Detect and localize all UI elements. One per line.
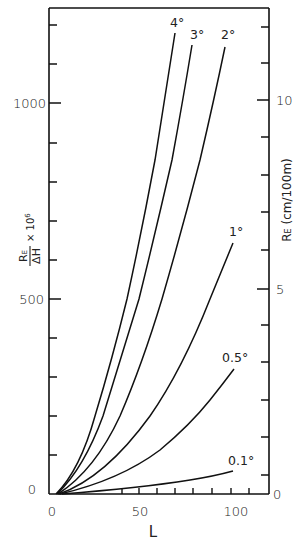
chart-canvas: 1000 500 0 10 5 0 0 50 100 L RE ΔH × 106… [0, 0, 298, 543]
x-axis-title: L [149, 523, 158, 541]
curve-label-2deg: 2° [221, 27, 235, 42]
y-right-axis-title: RE (cm/100m) [280, 158, 294, 242]
x-ticks [122, 488, 249, 494]
curve-label-05deg: 0.5° [222, 350, 248, 365]
svg-text:RE (cm/100m): RE (cm/100m) [280, 158, 294, 242]
curve-3deg [57, 45, 192, 494]
svg-text:× 106: × 106 [24, 213, 36, 242]
y-tick-1000: 1000 [13, 96, 46, 111]
x-tick-100: 100 [224, 504, 249, 519]
curve-01deg [62, 471, 233, 494]
yr-tick-5: 5 [276, 282, 284, 297]
y-tick-500: 500 [19, 292, 44, 307]
y-left-axis-title: RE ΔH × 106 [17, 213, 43, 266]
y-tick-0: 0 [28, 482, 36, 497]
svg-text:ΔH: ΔH [30, 248, 43, 264]
curves [56, 33, 234, 494]
curve-label-4deg: 4° [170, 15, 184, 30]
svg-text:RE: RE [17, 250, 30, 262]
x-tick-0: 0 [48, 504, 56, 519]
y-right-ticks [257, 27, 269, 475]
curve-label-01deg: 0.1° [228, 453, 254, 468]
plot-frame [49, 8, 269, 494]
x-tick-50: 50 [132, 504, 149, 519]
curve-05deg [60, 369, 234, 494]
curve-label-1deg: 1° [229, 224, 243, 239]
y-left-ticks [49, 25, 61, 455]
yr-tick-10: 10 [276, 93, 293, 108]
curve-label-3deg: 3° [190, 27, 204, 42]
yr-tick-0: 0 [273, 487, 281, 502]
